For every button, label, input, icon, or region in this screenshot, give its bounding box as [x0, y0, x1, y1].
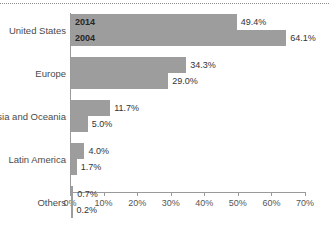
y-axis-category-label: Others [37, 197, 66, 208]
bar [71, 116, 88, 132]
x-axis-tick-label: 30% [162, 198, 180, 208]
y-axis-category-label: Asia and Oceania [0, 111, 66, 122]
plot-area: 0%10%20%30%40%50%60%70% United StatesEur… [0, 0, 329, 225]
bar-value-label: 64.1% [290, 33, 316, 43]
x-axis-tick [171, 192, 172, 196]
bar-value-label: 0.2% [77, 205, 98, 215]
bar [71, 57, 186, 73]
bar-value-label: 11.7% [114, 103, 139, 113]
x-axis-tick-label: 60% [262, 198, 280, 208]
bar-value-label: 0.7% [77, 189, 98, 199]
x-axis-tick-label: 40% [195, 198, 213, 208]
x-axis-tick [204, 192, 205, 196]
series-label-2014: 2014 [75, 17, 95, 27]
bar [71, 14, 237, 30]
bar-value-label: 5.0% [92, 119, 113, 129]
bar-value-label: 49.4% [241, 17, 267, 27]
bar-chart: 0%10%20%30%40%50%60%70% United StatesEur… [0, 0, 329, 225]
x-axis-tick-label: 70% [296, 198, 314, 208]
x-axis-tick [271, 192, 272, 196]
bar [71, 186, 73, 202]
y-axis-category-label: Latin America [8, 154, 66, 165]
y-axis-category-label: Europe [35, 68, 66, 79]
bar [71, 202, 73, 218]
x-axis-tick-label: 50% [229, 198, 247, 208]
bar [71, 73, 168, 89]
x-axis-tick [305, 192, 306, 196]
bar [71, 30, 286, 46]
bar-value-label: 34.3% [190, 60, 216, 70]
y-axis-category-label: United States [9, 25, 66, 36]
bar-value-label: 4.0% [88, 146, 109, 156]
bar-value-label: 1.7% [81, 162, 102, 172]
x-axis-tick [137, 192, 138, 196]
bar-value-label: 29.0% [172, 76, 198, 86]
x-axis-tick [238, 192, 239, 196]
x-axis-tick-label: 10% [95, 198, 113, 208]
x-axis-tick-label: 20% [128, 198, 146, 208]
bar [71, 159, 77, 175]
bar [71, 143, 84, 159]
x-axis-tick [104, 192, 105, 196]
bar [71, 100, 110, 116]
series-label-2004: 2004 [75, 33, 95, 43]
